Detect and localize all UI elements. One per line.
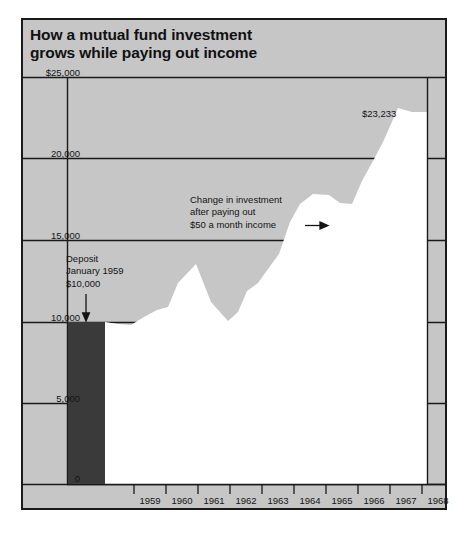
y-tick-label-0: 0 [24,473,80,484]
y-tick-label-5000: 5,000 [24,393,80,404]
change-annotation-line-1: Change in investment [190,194,282,206]
chart-screenshot: How a mutual fund investment grows while… [0,0,464,534]
change-annotation-line-3: $50 a month income [190,219,282,231]
deposit-arrow-icon [83,294,90,321]
y-tick-label-25000: $25,000 [24,67,80,78]
deposit-annotation-line-1: Deposit [66,253,124,265]
deposit-annotation-line-2: January 1959 [66,265,124,277]
deposit-annotation: Deposit January 1959 $10,000 [66,253,124,290]
x-axis-ticks [134,484,422,494]
y-tick-label-10000: 10,000 [24,312,80,323]
y-tick-label-20000: 20,000 [24,148,80,159]
investment-area [105,108,427,484]
deposit-annotation-line-3: $10,000 [66,278,124,290]
change-annotation-line-2: after paying out [190,206,282,218]
change-annotation: Change in investment after paying out $5… [190,194,282,231]
peak-value-label: $23,233 [362,108,396,119]
y-tick-label-15000: 15,000 [24,230,80,241]
x-tick-label-1968: 1968 [419,495,457,506]
